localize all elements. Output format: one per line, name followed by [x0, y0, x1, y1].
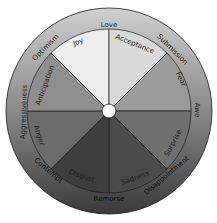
- emotion-wheel: Joy Acceptance Fear Surprise Sadness Dis…: [0, 0, 217, 223]
- label-love: Love: [101, 21, 118, 29]
- label-remorse: Remorse: [94, 195, 125, 203]
- label-awe: Awe: [193, 103, 201, 118]
- center-hub: [102, 104, 116, 118]
